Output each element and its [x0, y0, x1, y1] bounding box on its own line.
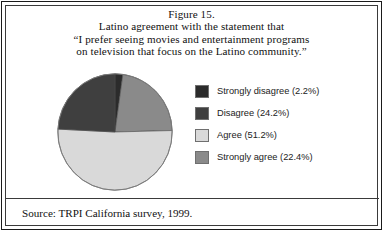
chart-legend: Strongly disagree (2.2%) Disagree (24.2%… [195, 82, 373, 170]
legend-label-strongly-agree: Strongly agree (22.4%) [217, 152, 313, 163]
figure-title-line-4: on television that focus on the Latino c… [10, 45, 373, 57]
legend-label-agree: Agree (51.2%) [217, 130, 277, 141]
legend-label-strongly-disagree: Strongly disagree (2.2%) [217, 86, 319, 97]
pie-slice-agree[interactable] [58, 129, 172, 190]
pie-slices [58, 74, 172, 190]
legend-swatch-strongly-agree [195, 151, 209, 164]
legend-item[interactable]: Strongly disagree (2.2%) [195, 82, 373, 100]
pie-chart-svg [56, 72, 174, 192]
figure-container: Figure 15. Latino agreement with the sta… [0, 0, 385, 233]
chart-area: Strongly disagree (2.2%) Disagree (24.2%… [7, 68, 376, 196]
legend-swatch-strongly-disagree [195, 85, 209, 98]
figure-title-line-3: “I prefer seeing movies and entertainmen… [10, 33, 373, 45]
legend-swatch-agree [195, 129, 209, 142]
figure-title-line-2: Latino agreement with the statement that [10, 20, 373, 32]
pie-slice-disagree[interactable] [58, 74, 115, 132]
legend-swatch-disagree [195, 107, 209, 120]
figure-title-line-1: Figure 15. [10, 8, 373, 20]
figure-title: Figure 15. Latino agreement with the sta… [10, 8, 373, 58]
legend-label-disagree: Disagree (24.2%) [217, 108, 289, 119]
legend-item[interactable]: Disagree (24.2%) [195, 104, 373, 122]
source-divider [6, 198, 379, 199]
pie-slice-strongly-agree[interactable] [115, 74, 172, 132]
source-note: Source: TRPI California survey, 1999. [22, 207, 192, 220]
pie-chart [56, 72, 174, 192]
legend-item[interactable]: Strongly agree (22.4%) [195, 148, 373, 166]
legend-item[interactable]: Agree (51.2%) [195, 126, 373, 144]
